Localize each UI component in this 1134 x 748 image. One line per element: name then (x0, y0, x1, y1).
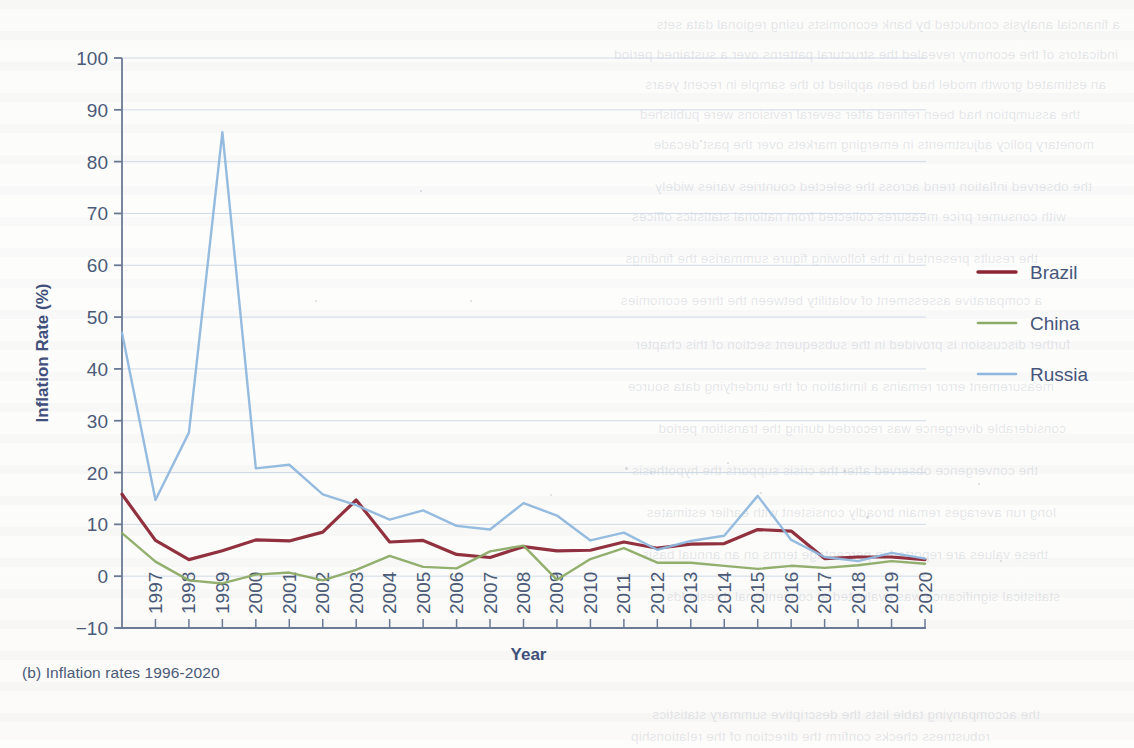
chart-legend: BrazilChinaRussia (978, 262, 1089, 385)
gridlines (122, 58, 926, 576)
x-tick-label: 2009 (546, 572, 567, 614)
x-tick-label: 2011 (613, 573, 634, 614)
figure-caption: (b) Inflation rates 1996-2020 (22, 664, 220, 682)
series-line-russia (122, 132, 925, 561)
x-tick-label: 2016 (781, 572, 802, 614)
y-tick-label: 30 (87, 411, 108, 432)
y-tick-label: 40 (87, 359, 108, 380)
y-tick-label: 20 (87, 463, 108, 484)
y-tick-label: 90 (87, 100, 108, 121)
x-tick-label: 2000 (245, 572, 266, 614)
y-tick-label: 70 (87, 203, 108, 224)
y-tick-label: 100 (76, 48, 108, 69)
y-tick-label: 50 (87, 307, 108, 328)
legend-label-china: China (1030, 313, 1080, 334)
y-tick-label: 10 (87, 514, 108, 535)
x-tick-label: 2005 (413, 572, 434, 614)
x-tick-label: 2008 (513, 572, 534, 614)
x-tick-label: 2019 (881, 572, 902, 614)
x-tick-label: 2017 (814, 572, 835, 614)
y-tick-label: 60 (87, 255, 108, 276)
x-tick-label: 2010 (580, 572, 601, 614)
y-tick-label: 0 (97, 566, 108, 587)
y-axis-ticks: 1009080706050403020100−10 (76, 48, 122, 639)
x-tick-label: 1998 (178, 572, 199, 614)
x-tick-label: 2013 (680, 572, 701, 614)
x-tick-label: 2012 (647, 572, 668, 614)
legend-label-russia: Russia (1030, 364, 1089, 385)
x-tick-label: 2014 (714, 571, 735, 614)
x-axis-title: Year (511, 645, 547, 664)
x-tick-label: 2006 (446, 572, 467, 614)
x-tick-label: 2015 (747, 572, 768, 614)
x-tick-label: 2007 (480, 572, 501, 614)
x-tick-label: 2003 (346, 572, 367, 614)
x-tick-label: 2004 (379, 571, 400, 614)
x-axis-ticks: 1997199819992000200120022003200420052006… (145, 571, 936, 628)
x-tick-label: 1999 (212, 572, 233, 614)
y-tick-label: 80 (87, 152, 108, 173)
y-axis-title: Inflation Rate (%) (33, 284, 52, 423)
data-series-group (122, 132, 925, 583)
x-tick-label: 2001 (279, 572, 300, 614)
x-tick-label: 2020 (915, 572, 936, 614)
x-tick-label: 2018 (848, 572, 869, 614)
x-tick-label: 1997 (145, 572, 166, 614)
legend-label-brazil: Brazil (1030, 262, 1078, 283)
y-tick-label: −10 (76, 618, 108, 639)
